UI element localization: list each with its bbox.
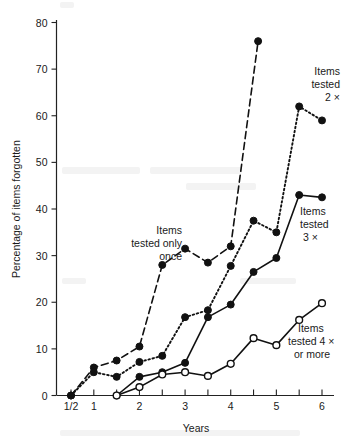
data-point bbox=[113, 392, 120, 399]
y-tick-label: 10 bbox=[36, 343, 48, 355]
x-tick-label: 4 bbox=[228, 400, 234, 412]
data-point bbox=[205, 373, 212, 380]
x-tick-label: 6 bbox=[319, 400, 325, 412]
data-point bbox=[159, 261, 166, 268]
annotation-line: Items bbox=[156, 224, 182, 236]
data-point bbox=[227, 243, 234, 250]
series-1 bbox=[68, 38, 262, 399]
y-tick-label: 40 bbox=[36, 203, 48, 215]
y-tick-label: 70 bbox=[36, 63, 48, 75]
data-point bbox=[90, 369, 97, 376]
annotation-line: tested only bbox=[131, 237, 183, 249]
annotation-line: or more bbox=[294, 348, 330, 360]
data-point bbox=[273, 229, 280, 236]
data-point bbox=[182, 314, 189, 321]
data-point bbox=[159, 371, 166, 378]
data-point bbox=[113, 373, 120, 380]
y-tick-label: 80 bbox=[36, 17, 48, 29]
y-axis-ticks bbox=[52, 23, 57, 396]
data-point bbox=[296, 192, 303, 199]
series-path bbox=[71, 41, 258, 395]
y-axis-tick-labels: 01020304050607080 bbox=[36, 17, 48, 402]
annotation-line: Items bbox=[300, 205, 326, 217]
annotation-line: 3 × bbox=[303, 231, 318, 243]
series-3 bbox=[113, 192, 325, 399]
data-point bbox=[136, 343, 143, 350]
annotation-items-tested-2x: Items tested 2 × bbox=[311, 65, 340, 103]
series-path bbox=[71, 106, 322, 395]
x-tick-label: 1 bbox=[91, 400, 97, 412]
series-2 bbox=[68, 103, 326, 399]
data-point bbox=[182, 359, 189, 366]
data-point bbox=[68, 392, 75, 399]
data-point bbox=[250, 335, 257, 342]
data-point bbox=[136, 384, 143, 391]
data-point bbox=[250, 217, 257, 224]
x-axis-tick-labels: 1/2123456 bbox=[64, 400, 325, 412]
x-tick-label: 1/2 bbox=[64, 400, 79, 412]
data-point bbox=[204, 307, 211, 314]
forgetting-curve-chart: 01020304050607080 1/2123456 Percentage o… bbox=[0, 0, 347, 441]
y-tick-label: 50 bbox=[36, 156, 48, 168]
x-tick-label: 5 bbox=[273, 400, 279, 412]
annotation-line: once bbox=[159, 250, 182, 262]
y-tick-label: 60 bbox=[36, 110, 48, 122]
data-series-layer bbox=[68, 38, 326, 399]
data-point bbox=[136, 373, 143, 380]
annotation-items-tested-only-once: Items tested only once bbox=[131, 224, 183, 262]
data-point bbox=[204, 314, 211, 321]
y-axis-title: Percentage of items forgotten bbox=[10, 140, 22, 278]
data-point bbox=[273, 254, 280, 261]
data-point bbox=[255, 38, 262, 45]
annotation-line: Items bbox=[314, 65, 340, 77]
y-tick-label: 0 bbox=[42, 390, 48, 402]
annotation-line: 2 × bbox=[325, 91, 340, 103]
data-point bbox=[182, 369, 189, 376]
data-point bbox=[319, 117, 326, 124]
x-tick-label: 3 bbox=[182, 400, 188, 412]
data-point bbox=[136, 358, 143, 365]
data-point bbox=[227, 262, 234, 269]
annotation-line: tested bbox=[311, 78, 340, 90]
data-point bbox=[159, 352, 166, 359]
data-point bbox=[204, 259, 211, 266]
data-point bbox=[296, 103, 303, 110]
annotation-items-tested-4x-or-more: Items tested 4 × or more bbox=[288, 322, 334, 360]
x-axis-title: Years bbox=[183, 422, 209, 434]
series-path bbox=[117, 195, 322, 395]
y-tick-label: 30 bbox=[36, 250, 48, 262]
x-axis-ticks bbox=[71, 390, 322, 396]
annotation-line: Items bbox=[298, 322, 324, 334]
data-point bbox=[250, 268, 257, 275]
annotation-line: tested 4 × bbox=[288, 335, 334, 347]
data-point bbox=[182, 245, 189, 252]
data-point bbox=[227, 301, 234, 308]
data-point bbox=[319, 194, 326, 201]
annotation-items-tested-3x: Items tested 3 × bbox=[300, 205, 329, 243]
x-tick-label: 2 bbox=[137, 400, 143, 412]
data-point bbox=[273, 342, 280, 349]
data-point bbox=[319, 300, 326, 307]
chart-canvas: 01020304050607080 1/2123456 Percentage o… bbox=[0, 0, 347, 441]
y-tick-label: 20 bbox=[36, 296, 48, 308]
data-point bbox=[227, 360, 234, 367]
annotation-line: tested bbox=[300, 218, 329, 230]
data-point bbox=[113, 357, 120, 364]
